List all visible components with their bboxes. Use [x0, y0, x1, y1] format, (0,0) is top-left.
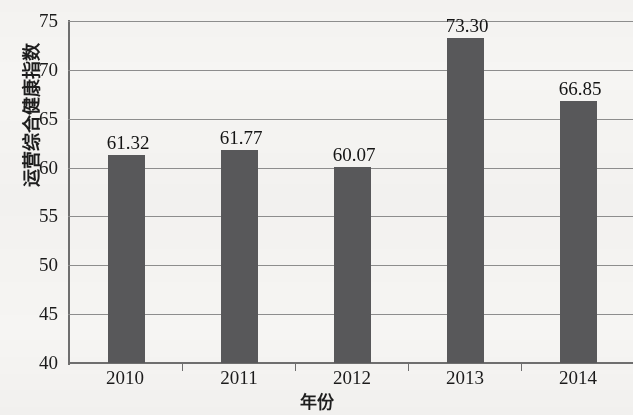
bar-chart: 运营综合健康指数 75 70 65 60 55 50 45 40 2010 20… [0, 0, 633, 415]
x-tick-label-2013: 2013 [405, 367, 525, 389]
bar-2010[interactable] [108, 155, 145, 363]
x-tick-label-2011: 2011 [179, 367, 299, 389]
bar-value-label-2012: 60.07 [294, 145, 414, 165]
bar-value-label-2011: 61.77 [181, 128, 301, 148]
bar-2014[interactable] [560, 101, 597, 363]
x-tick-label-2010: 2010 [65, 367, 185, 389]
y-tick-label-65: 65 [0, 109, 58, 129]
bar-2011[interactable] [221, 150, 258, 363]
x-axis-title: 年份 [0, 388, 633, 413]
y-tick-label-50: 50 [0, 255, 58, 275]
bar-value-label-2010: 61.32 [68, 133, 188, 153]
x-tick-label-2012: 2012 [292, 367, 412, 389]
y-tick-label-45: 45 [0, 304, 58, 324]
y-tick-label-75: 75 [0, 11, 58, 31]
bar-value-label-2013: 73.30 [407, 16, 527, 36]
bar-series-layer [70, 21, 633, 363]
bar-2013[interactable] [447, 38, 484, 363]
x-tick-label-2014: 2014 [518, 367, 633, 389]
bar-value-label-2014: 66.85 [520, 79, 633, 99]
y-tick-label-40: 40 [0, 353, 58, 373]
y-tick-label-70: 70 [0, 60, 58, 80]
y-tick-label-60: 60 [0, 158, 58, 178]
bar-2012[interactable] [334, 167, 371, 363]
y-tick-label-55: 55 [0, 206, 58, 226]
